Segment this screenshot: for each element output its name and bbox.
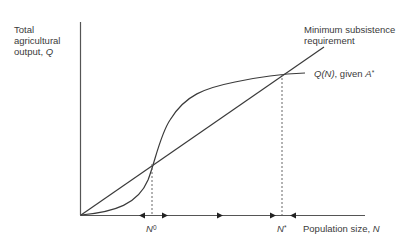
arrow-left-icon	[139, 213, 145, 219]
y-label-text: output,	[14, 46, 46, 57]
production-curve	[81, 73, 305, 215]
subsistence-line	[81, 47, 324, 215]
subsistence-label-line1: Minimum subsistence	[304, 24, 395, 35]
x-label-var: N	[373, 223, 380, 234]
n0-sup: 0	[153, 224, 157, 231]
y-label-line1: Total	[14, 24, 60, 35]
x-label-text: Population size,	[303, 223, 373, 234]
nstar-var: N	[277, 223, 284, 234]
arrow-left-icon	[290, 213, 296, 219]
curve-label-sup: *	[372, 69, 375, 76]
nstar-sup: *	[284, 224, 287, 231]
y-label-line2: agricultural	[14, 35, 60, 46]
curve-label: Q(N), given A*	[314, 68, 374, 79]
y-axis-label: Total agricultural output, Q	[14, 24, 60, 57]
x-axis-label: Population size, N	[303, 223, 380, 234]
nstar-label: N*	[277, 223, 286, 234]
arrow-right-icon	[270, 213, 276, 219]
n0-var: N	[146, 223, 153, 234]
y-label-line3: output, Q	[14, 46, 60, 57]
n0-label: N0	[146, 223, 157, 234]
curve-label-arg: (N)	[321, 68, 334, 79]
subsistence-label: Minimum subsistence requirement	[304, 24, 395, 46]
y-label-var: Q	[46, 46, 53, 57]
subsistence-label-line2: requirement	[304, 35, 395, 46]
arrow-right-icon	[217, 213, 223, 219]
curve-label-var: A	[365, 68, 371, 79]
curve-label-text: , given	[335, 68, 366, 79]
arrow-right-icon	[162, 213, 168, 219]
